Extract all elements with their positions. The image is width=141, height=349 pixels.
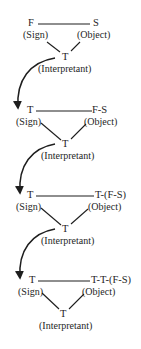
sign-role: (Sign)	[18, 287, 43, 297]
sign-interpretant-line	[41, 123, 61, 140]
sign-role: (Sign)	[16, 117, 41, 127]
interpretant-role: (Interpretant)	[39, 321, 92, 331]
interpretant-label: T	[60, 309, 66, 319]
sign-role: (Sign)	[16, 202, 41, 212]
interpretant-label: T	[62, 224, 68, 234]
interpretant-label: T	[62, 139, 68, 149]
object-role: (Object)	[84, 117, 117, 127]
object-label: F-S	[92, 105, 107, 115]
sign-interpretant-line	[41, 208, 61, 225]
object-label: S	[93, 18, 99, 28]
object-label: T-T-(F-S)	[91, 275, 131, 285]
interpretant-role: (Interpretant)	[38, 64, 91, 74]
object-role: (Object)	[82, 287, 115, 297]
sign-label: F	[28, 18, 34, 28]
object-interpretant-line	[71, 42, 80, 51]
object-label: T-(F-S)	[95, 190, 126, 200]
object-interpretant-line	[71, 209, 88, 224]
interpretant-role: (Interpretant)	[41, 151, 94, 161]
sign-interpretant-line	[47, 42, 60, 52]
sign-label: T	[27, 105, 33, 115]
sign-interpretant-line	[42, 293, 59, 309]
object-role: (Object)	[77, 30, 110, 40]
sign-label: T	[29, 275, 35, 285]
interpretant-role: (Interpretant)	[41, 236, 94, 246]
interpretant-label: T	[62, 52, 68, 62]
sign-role: (Sign)	[23, 30, 48, 40]
object-role: (Object)	[88, 202, 121, 212]
sign-label: T	[27, 190, 33, 200]
